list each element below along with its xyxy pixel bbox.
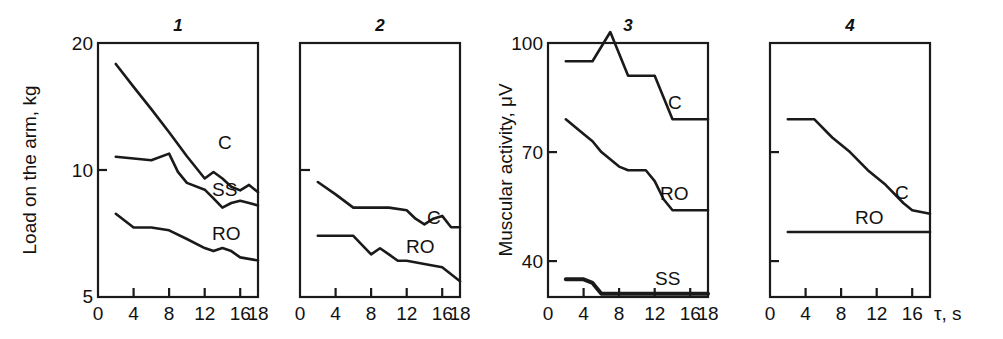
panel-1-number: 1 [173,16,182,35]
panel-3-xtick-label-8: 8 [614,303,625,324]
panel-3-y-axis-title: Muscular activity, μV [495,83,516,257]
panel-1: 1 20 10 5 Load on the arm, kg 0 4 8 12 1… [19,16,269,324]
figure-canvas: 1 20 10 5 Load on the arm, kg 0 4 8 12 1… [0,0,1003,339]
panel-2-xtick-label-8: 8 [366,303,377,324]
panel-2-curve-label-RO: RO [406,236,435,257]
panel-4-xtick-label-0: 0 [765,303,776,324]
panel-3-curve-label-RO: RO [660,183,689,204]
panel-2: 2 0 4 8 12 16 18 C RO [295,16,471,324]
panel-1-curve-C [116,64,258,192]
panel-1-xtick-label-0: 0 [93,303,104,324]
panel-4: 4 0 4 8 12 16 τ, s C RO [765,16,962,324]
panel-3-curve-label-SS: SS [655,268,680,289]
panel-3-xtick-label-18: 18 [697,303,718,324]
x-axis-unit-label: τ, s [934,303,962,324]
panel-4-frame [770,43,930,297]
panel-3-xtick-label-12: 12 [644,303,665,324]
panel-2-frame [300,43,460,297]
panel-2-number: 2 [374,16,385,35]
panel-3-ytick-label-40: 40 [522,251,543,272]
panel-3-xtick-label-0: 0 [543,303,554,324]
panel-3-ytick-label-70: 70 [522,142,543,163]
panel-1-xtick-label-12: 12 [194,303,215,324]
panel-1-ytick-label-5: 5 [82,286,93,307]
panel-2-curve-label-C: C [427,207,441,228]
panel-3-number: 3 [623,16,633,35]
panel-1-xtick-label-18: 18 [247,303,268,324]
panel-2-xtick-label-18: 18 [449,303,470,324]
panel-4-curve-label-C: C [895,182,909,203]
panel-3-curve-C [566,32,708,119]
panel-1-curve-label-SS: SS [212,179,237,200]
panel-1-curve-label-RO: RO [212,223,241,244]
panel-3-curve-label-C: C [668,92,682,113]
panel-4-curve-label-RO: RO [855,207,884,228]
panel-4-xtick-label-12: 12 [866,303,887,324]
panel-1-xtick-label-8: 8 [164,303,175,324]
multi-panel-line-chart-figure: 1 20 10 5 Load on the arm, kg 0 4 8 12 1… [0,0,1003,339]
panel-2-xtick-label-4: 4 [330,303,341,324]
panel-2-xtick-label-0: 0 [295,303,306,324]
panel-4-number: 4 [844,16,855,35]
panel-3: 3 100 70 40 Muscular activity, μV 0 4 8 … [495,16,719,324]
panel-1-curve-label-C: C [218,132,232,153]
panel-1-y-axis-title: Load on the arm, kg [19,86,40,255]
panel-3-ytick-label-100: 100 [511,33,543,54]
panel-1-ytick-label-10: 10 [72,160,93,181]
panel-3-xtick-label-4: 4 [578,303,589,324]
panel-1-xtick-label-4: 4 [128,303,139,324]
panel-2-xtick-label-12: 12 [396,303,417,324]
panel-2-curve-RO [318,236,460,281]
panel-4-xtick-label-8: 8 [836,303,847,324]
panel-1-ytick-label-20: 20 [72,33,93,54]
panel-3-curve-SS [566,279,708,294]
panel-4-xtick-label-16: 16 [902,303,923,324]
panel-4-xtick-label-4: 4 [800,303,811,324]
